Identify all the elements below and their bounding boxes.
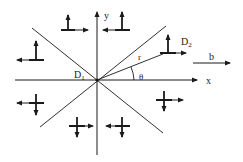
x-axis-label: x — [206, 75, 211, 86]
diagonal-line-ascending — [40, 26, 166, 127]
dislocation-diagram: y x D1 D2 r θ b — [0, 0, 243, 162]
radius-line — [97, 54, 163, 80]
theta-label: θ — [139, 72, 143, 82]
d2-label-sub: 2 — [188, 41, 192, 49]
dislocation-symbol-8 — [156, 91, 183, 111]
theta-arc — [131, 67, 134, 80]
dislocation-symbol-3 — [17, 41, 44, 60]
d1-label-main: D — [74, 69, 81, 80]
dislocation-symbol-5 — [17, 94, 44, 115]
dislocation-symbol-7 — [106, 117, 130, 137]
d2-label-main: D — [181, 36, 188, 47]
d2-label: D2 — [181, 36, 192, 49]
radius-label: r — [138, 52, 141, 62]
burgers-vector-label: b — [209, 51, 214, 62]
d1-label-sub: 1 — [81, 74, 85, 82]
dislocation-symbol-1 — [61, 15, 88, 30]
dislocation-symbol-6 — [69, 117, 93, 137]
origin-point — [95, 78, 98, 81]
y-axis-label: y — [104, 10, 109, 21]
